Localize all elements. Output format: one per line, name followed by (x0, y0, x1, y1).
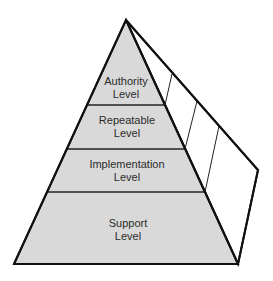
level-label-line: Support (68, 217, 188, 230)
level-label-implementation: Implementation Level (67, 158, 187, 184)
level-label-line: Level (67, 171, 187, 184)
level-label-authority: Authority Level (66, 75, 186, 101)
level-label-line: Level (67, 127, 187, 140)
level-label-line: Level (66, 88, 186, 101)
level-label-line: Implementation (67, 158, 187, 171)
level-label-line: Repeatable (67, 114, 187, 127)
level-label-line: Level (68, 230, 188, 243)
level-label-support: Support Level (68, 217, 188, 243)
level-label-repeatable: Repeatable Level (67, 114, 187, 140)
level-label-line: Authority (66, 75, 186, 88)
pyramid-diagram: Authority Level Repeatable Level Impleme… (0, 0, 273, 281)
